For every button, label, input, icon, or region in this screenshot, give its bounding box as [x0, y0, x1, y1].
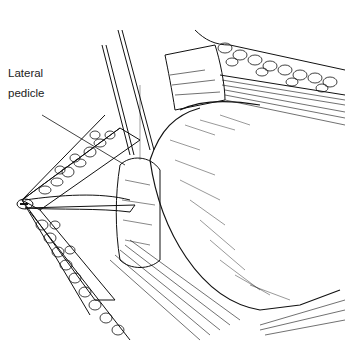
label-leader-line [42, 115, 125, 165]
left-lower-fat-layer [22, 200, 115, 300]
retractor-blade [165, 45, 225, 110]
label-line-2: pedicle [8, 86, 44, 100]
surgical-illustration [0, 0, 354, 357]
label-lateral-pedicle: Lateral pedicle [8, 66, 44, 100]
rod-right [118, 30, 154, 150]
label-line-1: Lateral [8, 66, 44, 80]
pedicle [116, 158, 160, 267]
